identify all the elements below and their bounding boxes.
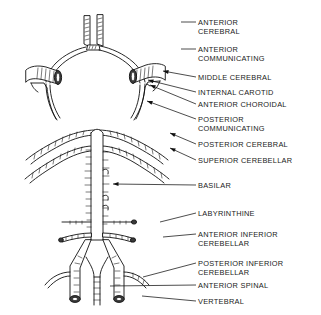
vertebral-arteries <box>70 240 125 302</box>
label-line: ANTERIOR SPINAL <box>198 281 268 290</box>
label-anterior-communicating: ANTERIORCOMMUNICATING <box>198 45 265 63</box>
label-anterior-inferior-cerebellar: ANTERIOR INFERIORCEREBELLAR <box>198 230 278 248</box>
leader-line-posterior-communicating <box>147 101 196 119</box>
arrowhead-basilar <box>113 182 119 186</box>
label-line: BASILAR <box>198 181 231 190</box>
arrowhead-posterior-cerebral <box>169 131 176 137</box>
label-line: COMMUNICATING <box>198 124 265 133</box>
label-line: VERTEBRAL <box>198 297 244 306</box>
label-labyrinthine: LABYRINTHINE <box>198 209 255 218</box>
label-layer: ANTERIORCEREBRALANTERIORCOMMUNICATINGMID… <box>198 18 292 306</box>
anterior-cerebral-arteries <box>84 15 103 47</box>
arrowhead-superior-cerebellar <box>169 146 176 152</box>
label-line: CEREBELLAR <box>198 268 249 277</box>
label-line: SUPERIOR CEREBELLAR <box>198 156 292 165</box>
arrowhead-internal-carotid <box>148 78 154 83</box>
label-line: CEREBRAL <box>198 27 240 36</box>
label-basilar: BASILAR <box>198 181 231 190</box>
label-line: CEREBELLAR <box>198 239 249 248</box>
label-internal-carotid: INTERNAL CAROTID <box>198 88 274 97</box>
posterior-communicating-arteries <box>47 87 145 119</box>
label-posterior-cerebral: POSTERIOR CEREBRAL <box>198 140 288 149</box>
circle-of-willis-ring <box>46 46 145 120</box>
leader-line-labyrinthine <box>160 213 196 222</box>
label-anterior-choroidal: ANTERIOR CHOROIDAL <box>198 100 287 109</box>
leader-line-anterior-choroidal <box>150 85 196 104</box>
label-posterior-inferior-cerebellar: POSTERIOR INFERIORCEREBELLAR <box>198 259 283 277</box>
label-line: MIDDLE CEREBRAL <box>198 73 272 82</box>
leader-line-posterior-inferior-cerebellar <box>143 263 196 277</box>
internal-carotid-right <box>129 64 165 91</box>
label-vertebral: VERTEBRAL <box>198 297 244 306</box>
arterial-anatomy-drawing: ANTERIORCEREBRALANTERIORCOMMUNICATINGMID… <box>0 0 321 315</box>
label-superior-cerebellar: SUPERIOR CEREBELLAR <box>198 156 292 165</box>
anterior-spinal-artery <box>86 257 108 305</box>
leader-line-basilar <box>113 184 196 185</box>
circle-of-willis-diagram: ANTERIORCEREBRALANTERIORCOMMUNICATINGMID… <box>0 0 321 315</box>
leader-line-anterior-inferior-cerebellar <box>163 234 196 237</box>
label-posterior-communicating: POSTERIORCOMMUNICATING <box>198 115 265 133</box>
label-line: ANTERIOR CHOROIDAL <box>198 100 287 109</box>
label-line: COMMUNICATING <box>198 54 265 63</box>
label-line: LABYRINTHINE <box>198 209 255 218</box>
label-line: INTERNAL CAROTID <box>198 88 274 97</box>
anterior-communicating-artery <box>87 45 100 50</box>
label-middle-cerebral: MIDDLE CEREBRAL <box>198 73 272 82</box>
label-anterior-cerebral: ANTERIORCEREBRAL <box>198 18 240 36</box>
label-anterior-spinal: ANTERIOR SPINAL <box>198 281 268 290</box>
label-line: POSTERIOR CEREBRAL <box>198 140 288 149</box>
leader-line-vertebral <box>142 296 196 301</box>
arrowhead-posterior-communicating <box>146 99 153 105</box>
